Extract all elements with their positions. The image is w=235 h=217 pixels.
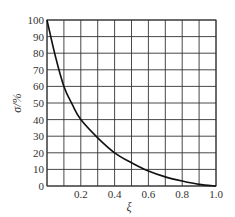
x-tick-labels: 0.20.40.60.81.0	[74, 188, 223, 200]
y-tick-label: 20	[33, 147, 45, 159]
y-tick-label: 50	[33, 97, 45, 109]
y-tick-label: 10	[33, 163, 45, 175]
y-tick-label: 60	[33, 80, 45, 92]
y-tick-label: 90	[33, 31, 45, 43]
y-tick-label: 80	[33, 47, 45, 59]
x-tick-label: 0.6	[142, 188, 156, 200]
x-tick-label: 1.0	[209, 188, 223, 200]
x-tick-label: 0.4	[108, 188, 122, 200]
y-tick-label: 40	[33, 114, 45, 126]
y-tick-label: 0	[39, 180, 45, 192]
y-tick-label: 100	[28, 14, 45, 26]
x-tick-label: 0.2	[74, 188, 88, 200]
y-tick-label: 30	[33, 130, 45, 142]
x-axis-label: ξ	[126, 200, 132, 214]
x-tick-label: 0.8	[175, 188, 189, 200]
chart: 0102030405060708090100 0.20.40.60.81.0 ξ…	[0, 0, 235, 217]
y-tick-label: 70	[33, 64, 45, 76]
y-tick-labels: 0102030405060708090100	[28, 14, 45, 192]
y-axis-label: σ/%	[10, 93, 24, 112]
